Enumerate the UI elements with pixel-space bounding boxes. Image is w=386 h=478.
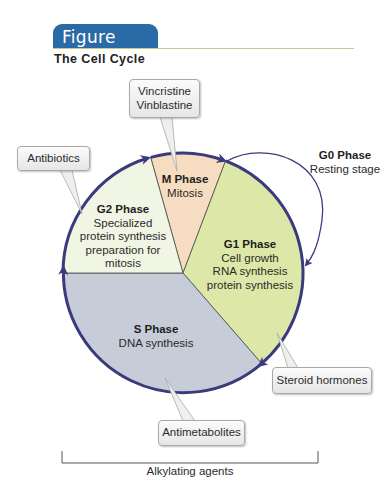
g2-phase-label: G2 Phase Specialized protein synthesis p… — [80, 203, 166, 271]
callout-antimetabolites: Antimetabolites — [158, 420, 245, 446]
g0-phase-label: G0 Phase Resting stage — [310, 149, 380, 176]
pointer-steroid — [277, 333, 298, 368]
pointer-antibiotics — [60, 170, 82, 214]
alkylating-agents-label: Alkylating agents — [147, 465, 234, 477]
callout-vincristine-vinblastine: Vincristine Vinblastine — [129, 79, 200, 118]
cell-cycle-diagram — [0, 0, 386, 478]
callout-antibiotics: Antibiotics — [17, 146, 90, 171]
g1-phase-label: G1 Phase Cell growth RNA synthesis prote… — [207, 238, 293, 292]
m-phase-label: M Phase Mitosis — [162, 173, 209, 200]
callout-steroid-hormones: Steroid hormones — [272, 367, 372, 394]
s-phase-label: S Phase DNA synthesis — [119, 323, 194, 350]
alkylating-bracket — [62, 451, 318, 463]
